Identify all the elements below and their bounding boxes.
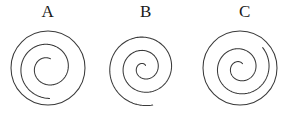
spiral-drawing-a bbox=[0, 20, 96, 116]
panel-label-a: A bbox=[0, 2, 96, 22]
panel-label-b: B bbox=[96, 2, 194, 22]
spiral-curve bbox=[110, 37, 172, 105]
spiral-curve bbox=[21, 44, 68, 98]
figure-container: A B C bbox=[0, 0, 288, 118]
spiral-drawing-b bbox=[96, 20, 192, 116]
panel-label-c: C bbox=[192, 2, 288, 22]
outer-circle bbox=[11, 31, 85, 105]
spiral-drawing-c bbox=[192, 20, 288, 116]
figure-panel-a: A bbox=[0, 0, 96, 118]
figure-panel-b: B bbox=[96, 0, 192, 118]
figure-panel-c: C bbox=[192, 0, 288, 118]
spiral-curve bbox=[217, 48, 269, 94]
